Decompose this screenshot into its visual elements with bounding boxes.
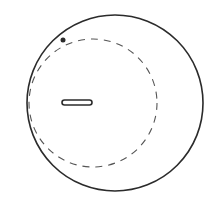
- outer-circle: [27, 15, 203, 191]
- slot-shape: [62, 100, 92, 105]
- diagram-canvas: [0, 0, 212, 209]
- dashed-circle: [29, 39, 157, 167]
- marker-dot: [61, 38, 66, 43]
